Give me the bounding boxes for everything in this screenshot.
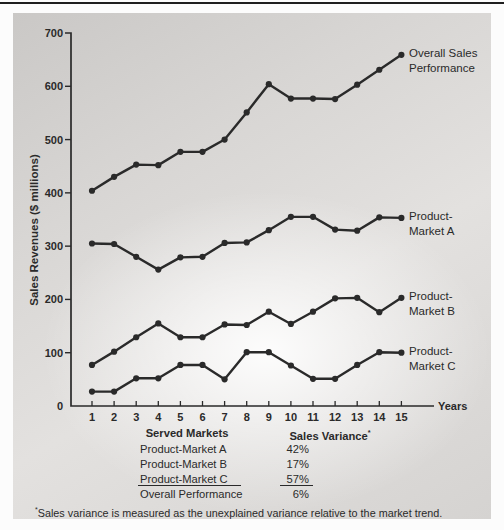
data-point-market-c bbox=[244, 349, 250, 355]
row-value: 6% bbox=[243, 487, 309, 502]
sales-revenue-line-chart: 0100200300400500600700123456789101112131… bbox=[13, 13, 491, 425]
data-point-market-b bbox=[199, 334, 205, 340]
data-point-overall bbox=[222, 136, 228, 142]
data-point-market-b bbox=[111, 349, 117, 355]
data-point-market-b bbox=[354, 295, 360, 301]
series-label-market-b: Market B bbox=[409, 305, 455, 317]
x-tick-label: 4 bbox=[155, 411, 162, 423]
data-point-market-a bbox=[288, 214, 294, 220]
data-point-market-b bbox=[89, 362, 95, 368]
data-point-overall bbox=[199, 149, 205, 155]
data-point-overall bbox=[133, 162, 139, 168]
data-point-market-c bbox=[89, 389, 95, 395]
row-label: Overall Performance bbox=[140, 487, 243, 502]
data-point-overall bbox=[155, 162, 161, 168]
data-point-market-a bbox=[266, 227, 272, 233]
data-point-market-a bbox=[398, 215, 404, 221]
x-tick-label: 14 bbox=[373, 411, 386, 423]
table-header-served-markets: Served Markets bbox=[122, 425, 252, 441]
table-header-sales-variance: Sales Variance* bbox=[275, 425, 385, 444]
data-point-market-a bbox=[111, 241, 117, 247]
footnote: *Sales variance is measured as the unexp… bbox=[35, 503, 481, 520]
data-point-market-b bbox=[266, 309, 272, 315]
data-point-market-a bbox=[376, 214, 382, 220]
data-point-overall bbox=[354, 82, 360, 88]
y-tick-label: 300 bbox=[45, 240, 63, 252]
x-tick-label: 1 bbox=[89, 411, 95, 423]
data-point-market-a bbox=[155, 266, 161, 272]
row-label: Product-Market A bbox=[140, 442, 226, 457]
data-point-market-c bbox=[332, 376, 338, 382]
data-point-overall bbox=[266, 81, 272, 87]
data-point-market-b bbox=[177, 334, 183, 340]
y-tick-label: 200 bbox=[45, 293, 63, 305]
data-point-market-c bbox=[222, 376, 228, 382]
x-tick-label: 13 bbox=[351, 411, 363, 423]
x-tick-label: 6 bbox=[199, 411, 205, 423]
data-point-overall bbox=[332, 96, 338, 102]
data-point-market-a bbox=[89, 240, 95, 246]
data-point-overall bbox=[244, 109, 250, 115]
data-point-overall bbox=[288, 95, 294, 101]
data-point-market-c bbox=[310, 376, 316, 382]
data-point-overall bbox=[310, 95, 316, 101]
series-label-market-c: Product- bbox=[409, 345, 453, 357]
y-axis-title: Sales Revenues ($ millions) bbox=[28, 154, 40, 306]
data-point-market-c bbox=[199, 362, 205, 368]
data-point-market-c bbox=[133, 375, 139, 381]
data-point-market-a bbox=[177, 254, 183, 260]
series-label-overall: Performance bbox=[409, 62, 475, 74]
data-point-overall bbox=[89, 188, 95, 194]
data-point-market-a bbox=[244, 239, 250, 245]
data-point-market-b bbox=[376, 309, 382, 315]
data-point-market-a bbox=[332, 227, 338, 233]
data-point-market-a bbox=[310, 214, 316, 220]
figure-panel: 0100200300400500600700123456789101112131… bbox=[13, 13, 491, 519]
x-tick-label: 12 bbox=[329, 411, 341, 423]
data-point-market-c bbox=[111, 389, 117, 395]
data-point-market-b bbox=[133, 334, 139, 340]
table-header-sales-variance-text: Sales Variance bbox=[289, 430, 367, 442]
x-tick-label: 8 bbox=[244, 411, 250, 423]
data-point-market-c bbox=[354, 362, 360, 368]
x-tick-label: 7 bbox=[222, 411, 228, 423]
data-point-overall bbox=[376, 67, 382, 73]
data-point-market-c bbox=[288, 362, 294, 368]
data-point-market-b bbox=[332, 295, 338, 301]
y-tick-label: 100 bbox=[45, 347, 63, 359]
data-point-market-c bbox=[376, 349, 382, 355]
series-label-market-c: Market C bbox=[409, 360, 456, 372]
x-tick-label: 11 bbox=[307, 411, 319, 423]
data-point-overall bbox=[177, 149, 183, 155]
row-value: 42% bbox=[243, 442, 309, 457]
footnote-text: Sales variance is measured as the unexpl… bbox=[38, 507, 443, 519]
table-row-market-c: Product-Market C 57% bbox=[13, 472, 491, 487]
series-line-overall bbox=[92, 55, 401, 191]
data-point-overall bbox=[111, 174, 117, 180]
y-tick-label: 600 bbox=[45, 80, 63, 92]
y-tick-label: 400 bbox=[45, 187, 63, 199]
data-point-market-a bbox=[354, 228, 360, 234]
data-point-market-c bbox=[155, 375, 161, 381]
top-border-rule bbox=[0, 2, 504, 4]
x-tick-label: 10 bbox=[285, 411, 297, 423]
table-row-market-a: Product-Market A 42% bbox=[13, 442, 491, 457]
row-label: Product-Market B bbox=[140, 457, 227, 472]
series-label-market-a: Market A bbox=[409, 225, 455, 237]
table-row-market-b: Product-Market B 17% bbox=[13, 457, 491, 472]
x-tick-label: 15 bbox=[395, 411, 407, 423]
series-line-market-c bbox=[92, 352, 401, 391]
data-point-market-b bbox=[155, 320, 161, 326]
x-axis-title: Years bbox=[438, 400, 467, 412]
data-point-market-b bbox=[244, 322, 250, 328]
data-point-market-b bbox=[310, 309, 316, 315]
data-point-overall bbox=[398, 52, 404, 58]
x-tick-label: 2 bbox=[111, 411, 117, 423]
x-tick-label: 9 bbox=[266, 411, 272, 423]
y-tick-label: 0 bbox=[57, 400, 63, 412]
data-point-market-a bbox=[199, 254, 205, 260]
data-point-market-b bbox=[222, 321, 228, 327]
footnote-marker-superscript: * bbox=[368, 428, 371, 437]
data-point-market-b bbox=[288, 321, 294, 327]
series-label-overall: Overall Sales bbox=[409, 47, 478, 59]
